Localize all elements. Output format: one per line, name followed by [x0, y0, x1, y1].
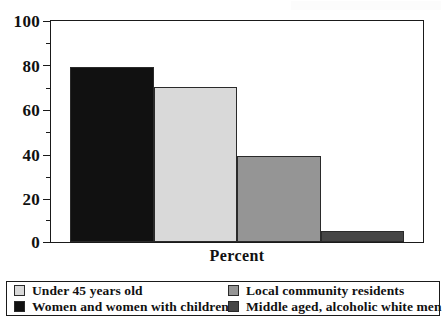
y-axis: 100 80 60 40 20 0 [0, 20, 50, 243]
legend-swatch-icon-under-45-years-old [14, 285, 25, 296]
y-tick-20 [43, 199, 50, 200]
y-label-60: 60 [22, 102, 40, 119]
legend-item-middle-aged-alcoholic-white-men: Middle aged, alcoholic white men [221, 300, 442, 314]
y-label-20: 20 [22, 191, 40, 208]
bar-chart-figure: 100 80 60 40 20 0 Percent Under 45 ye [0, 0, 447, 320]
y-tick-40 [43, 155, 50, 156]
legend-label-local-community-residents: Local community residents [246, 284, 404, 298]
bars-container [51, 21, 423, 242]
legend-swatch-icon-local-community-residents [228, 285, 239, 296]
x-axis-title: Percent [50, 247, 424, 265]
y-label-100: 100 [14, 13, 40, 30]
y-label-40: 40 [22, 146, 40, 163]
plot-area [50, 20, 424, 243]
y-tick-60 [43, 110, 50, 111]
scan-artifact [291, 1, 441, 10]
bar-local-community-residents [237, 156, 321, 242]
legend-item-under-45-years-old: Under 45 years old [7, 284, 221, 298]
legend-swatch-icon-middle-aged-alcoholic-white-men [228, 301, 239, 312]
y-tick-80 [43, 65, 50, 66]
legend-swatch-icon-women-and-women-with-children [14, 301, 25, 312]
y-tick-0 [43, 242, 50, 243]
y-label-80: 80 [22, 57, 40, 74]
legend-item-women-and-women-with-children: Women and women with children [7, 300, 221, 314]
bar-women-and-women-with-children [70, 67, 154, 242]
legend-label-middle-aged-alcoholic-white-men: Middle aged, alcoholic white men [246, 300, 442, 314]
y-tick-100 [43, 21, 50, 22]
bar-under-45-years-old [154, 87, 238, 242]
legend: Under 45 years old Local community resid… [6, 281, 440, 316]
y-label-0: 0 [31, 234, 40, 251]
bar-middle-aged-alcoholic-white-men [321, 231, 405, 242]
legend-item-local-community-residents: Local community residents [221, 284, 442, 298]
legend-label-under-45-years-old: Under 45 years old [32, 284, 143, 298]
legend-label-women-and-women-with-children: Women and women with children [32, 300, 229, 314]
